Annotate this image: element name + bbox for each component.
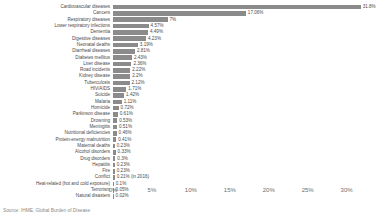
bar-category-label: Fire [0, 168, 113, 174]
bar-value-label: 2.12% [130, 80, 145, 86]
bar-value-label: 7% [168, 17, 177, 23]
x-axis-tick: 25% [302, 187, 314, 193]
bar-category-label: Cardiovascular diseases [0, 4, 113, 10]
bar-value-label: 0.61% [118, 111, 133, 117]
source-caption: Source: IHME, Global Burden of Disease [3, 208, 90, 213]
bar [113, 93, 124, 98]
bar-category-label: Protein-energy malnutrition [0, 137, 113, 143]
x-axis-tick: 15% [224, 187, 236, 193]
bar-value-label: 4.23% [146, 36, 161, 42]
bar-category-label: Liver disease [0, 61, 113, 67]
bar-category-label: Cancers [0, 10, 113, 16]
bar-category-label: Maternal deaths [0, 143, 113, 149]
bar-value-label: 0.46% [117, 130, 132, 136]
bar-value-label: 0.23% [115, 168, 130, 174]
x-axis-tick: 30% [341, 187, 353, 193]
bar-category-label: Alcohol disorders [0, 149, 113, 155]
bar-category-label: Meningitis [0, 124, 113, 130]
bar [113, 62, 131, 67]
x-axis-tick: 0% [109, 187, 118, 193]
bar [113, 87, 126, 92]
bar [113, 100, 122, 105]
bar-value-label: 0.53% [117, 118, 132, 124]
bar-category-label: Natural disasters [0, 193, 113, 199]
bar-value-label: 1.71% [126, 86, 141, 92]
bar-category-label: HIV/AIDS [0, 86, 113, 92]
bar-category-label: Lower respiratory infections [0, 23, 113, 29]
x-axis-tick: 5% [148, 187, 157, 193]
bar-category-label: Drowning [0, 118, 113, 124]
bar-category-label: Neonatal deaths [0, 42, 113, 48]
bar [113, 5, 361, 10]
chart-container: Cardiovascular diseases31.8%Cancers17.06… [0, 0, 376, 216]
bar [113, 74, 130, 79]
bar-category-label: Suicide [0, 92, 113, 98]
bar-category-label: Heat-related (hot and cold exposure) [0, 181, 113, 187]
bar-value-label: 17.06% [246, 10, 264, 16]
bar-category-label: Respiratory diseases [0, 17, 113, 23]
bar-value-label: 1.42% [124, 92, 139, 98]
bar [113, 55, 132, 60]
bar [113, 49, 135, 54]
bar-category-label: Parkinson disease [0, 111, 113, 117]
bar-value-label: 0.3% [115, 156, 127, 162]
bar-value-label: 2.81% [135, 48, 150, 54]
bar-value-label: 0.23% [115, 162, 130, 168]
bar-category-label: Conflict [0, 174, 113, 180]
bar [113, 36, 146, 41]
bar-value-label: 31.8% [361, 4, 376, 10]
bar-category-label: Dementia [0, 29, 113, 35]
bar-value-label: 1.11% [122, 99, 137, 105]
bar [113, 68, 130, 73]
bar [113, 24, 149, 29]
bar-category-label: Digestive diseases [0, 36, 113, 42]
bar-value-label: 2.2% [130, 73, 142, 79]
bar-category-label: Hepatitis [0, 162, 113, 168]
bar-category-label: Diarrheal diseases [0, 48, 113, 54]
bar-value-label: 0.41% [116, 137, 131, 143]
bar-category-label: Drug disorders [0, 156, 113, 162]
x-axis-tick: 10% [185, 187, 197, 193]
bar [113, 30, 148, 35]
bar-category-label: Nutritional deficiencies [0, 130, 113, 136]
bar-category-label: Malaria [0, 99, 113, 105]
bar-value-label: 3.19% [138, 42, 153, 48]
bar [113, 17, 168, 22]
x-axis: 0%5%10%15%20%25%30% [113, 187, 376, 201]
bar-value-label: 0.72% [119, 105, 134, 111]
bar-value-label: 2.36% [131, 61, 146, 67]
bar-category-label: Homicide [0, 105, 113, 111]
bar-category-label: Diabetes mellitus [0, 55, 113, 61]
bar-value-label: 0.51% [117, 124, 132, 130]
x-axis-tick: 20% [263, 187, 275, 193]
bar-category-label: Terrorism [0, 187, 113, 193]
bar [113, 81, 130, 86]
bar-value-label: 0.33% [116, 149, 131, 155]
bar-plot-area: Cardiovascular diseases31.8%Cancers17.06… [0, 4, 376, 187]
bar [113, 11, 246, 16]
bar-value-label: 2.43% [132, 55, 147, 61]
bar-value-label: 4.49% [148, 29, 163, 35]
bar-category-label: Kidney disease [0, 73, 113, 79]
bar-category-label: Tuberculosis [0, 80, 113, 86]
bar-value-label: 4.57% [149, 23, 164, 29]
bar-value-label: 0.21% (in 2016) [115, 174, 149, 180]
bar-value-label: 2.22% [130, 67, 145, 73]
bar-category-label: Road incidents [0, 67, 113, 73]
bar [113, 43, 138, 48]
bar-value-label: 0.23% [115, 143, 130, 149]
